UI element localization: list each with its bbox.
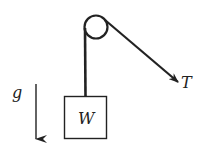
weight-label: W bbox=[78, 109, 96, 128]
pulley-wheel bbox=[85, 16, 108, 39]
rope-vertical bbox=[85, 28, 86, 97]
gravity-label: g bbox=[12, 83, 22, 102]
pulley-diagram: g W T bbox=[0, 0, 211, 149]
tension-arrow bbox=[105, 20, 178, 82]
tension-label: T bbox=[181, 73, 193, 92]
diagram-canvas: g W T bbox=[0, 0, 211, 149]
